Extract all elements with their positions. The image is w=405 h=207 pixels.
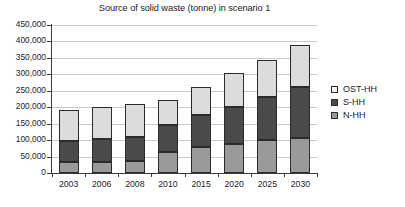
bar-segment-n-hh[interactable] bbox=[158, 152, 178, 173]
bar-segment-ost-hh[interactable] bbox=[92, 107, 112, 139]
bar-segment-ost-hh[interactable] bbox=[59, 110, 79, 141]
bar-segment-n-hh[interactable] bbox=[59, 162, 79, 173]
bar-segment-ost-hh[interactable] bbox=[158, 100, 178, 125]
legend-label: S-HH bbox=[343, 96, 365, 109]
bar-stack[interactable] bbox=[158, 100, 178, 173]
y-tick-label: 250,000 bbox=[2, 86, 46, 95]
y-tick-label: 50,000 bbox=[2, 152, 46, 161]
x-tick-mark bbox=[52, 173, 53, 177]
bar-segment-s-hh[interactable] bbox=[125, 137, 145, 162]
y-axis-line bbox=[51, 24, 52, 174]
chart-legend: OST-HHS-HHN-HH bbox=[331, 83, 401, 122]
x-tick-label: 2008 bbox=[118, 179, 151, 189]
x-tick-mark bbox=[284, 173, 285, 177]
legend-item[interactable]: S-HH bbox=[331, 96, 401, 109]
gridline bbox=[52, 41, 317, 42]
plot-area bbox=[52, 25, 317, 173]
bar-stack[interactable] bbox=[92, 107, 112, 173]
y-tick-label: 400,000 bbox=[2, 36, 46, 45]
bar-segment-ost-hh[interactable] bbox=[125, 104, 145, 137]
bar-segment-n-hh[interactable] bbox=[257, 140, 277, 173]
bar-stack[interactable] bbox=[59, 110, 79, 173]
bar-segment-s-hh[interactable] bbox=[290, 87, 310, 138]
x-tick-label: 2020 bbox=[218, 179, 251, 189]
bar-stack[interactable] bbox=[257, 60, 277, 173]
bar-segment-ost-hh[interactable] bbox=[191, 87, 211, 116]
bar-stack[interactable] bbox=[290, 45, 310, 173]
x-tick-mark bbox=[118, 173, 119, 177]
x-tick-label: 2010 bbox=[151, 179, 184, 189]
bar-segment-n-hh[interactable] bbox=[191, 147, 211, 173]
y-tick-label: 350,000 bbox=[2, 53, 46, 62]
chart-figure: Source of solid waste (tonne) in scenari… bbox=[0, 0, 405, 207]
legend-label: OST-HH bbox=[343, 83, 377, 96]
chart-title: Source of solid waste (tonne) in scenari… bbox=[52, 3, 317, 14]
bar-segment-s-hh[interactable] bbox=[59, 141, 79, 162]
x-tick-mark bbox=[218, 173, 219, 177]
bar-segment-s-hh[interactable] bbox=[257, 97, 277, 140]
bar-segment-ost-hh[interactable] bbox=[257, 60, 277, 97]
x-tick-mark bbox=[317, 173, 318, 177]
legend-swatch-s-hh bbox=[331, 99, 338, 106]
bar-segment-n-hh[interactable] bbox=[92, 162, 112, 174]
bar-segment-s-hh[interactable] bbox=[158, 125, 178, 152]
bar-segment-s-hh[interactable] bbox=[191, 115, 211, 146]
y-axis-labels: 450,000400,000350,000300,000250,000200,0… bbox=[0, 0, 46, 207]
bar-segment-ost-hh[interactable] bbox=[224, 73, 244, 106]
x-tick-mark bbox=[85, 173, 86, 177]
legend-swatch-ost-hh bbox=[331, 86, 338, 93]
bar-segment-n-hh[interactable] bbox=[125, 161, 145, 173]
y-tick-label: 150,000 bbox=[2, 119, 46, 128]
y-tick-label: 100,000 bbox=[2, 135, 46, 144]
legend-item[interactable]: OST-HH bbox=[331, 83, 401, 96]
bar-segment-n-hh[interactable] bbox=[224, 144, 244, 173]
bar-segment-s-hh[interactable] bbox=[92, 139, 112, 161]
legend-item[interactable]: N-HH bbox=[331, 109, 401, 122]
y-tick-label: 200,000 bbox=[2, 102, 46, 111]
x-tick-label: 2025 bbox=[251, 179, 284, 189]
x-tick-mark bbox=[185, 173, 186, 177]
x-tick-label: 2006 bbox=[85, 179, 118, 189]
bar-segment-ost-hh[interactable] bbox=[290, 45, 310, 87]
bar-segment-s-hh[interactable] bbox=[224, 107, 244, 145]
x-tick-label: 2015 bbox=[185, 179, 218, 189]
x-tick-label: 2003 bbox=[52, 179, 85, 189]
bar-stack[interactable] bbox=[191, 87, 211, 173]
x-tick-mark bbox=[151, 173, 152, 177]
bar-segment-n-hh[interactable] bbox=[290, 138, 310, 173]
y-tick-label: 300,000 bbox=[2, 69, 46, 78]
bar-stack[interactable] bbox=[224, 73, 244, 173]
legend-label: N-HH bbox=[343, 109, 366, 122]
y-tick-label: 450,000 bbox=[2, 20, 46, 29]
gridline bbox=[52, 25, 317, 26]
legend-swatch-n-hh bbox=[331, 112, 338, 119]
bar-stack[interactable] bbox=[125, 104, 145, 173]
x-tick-label: 2030 bbox=[284, 179, 317, 189]
y-tick-label: 0 bbox=[2, 168, 46, 177]
x-tick-mark bbox=[251, 173, 252, 177]
